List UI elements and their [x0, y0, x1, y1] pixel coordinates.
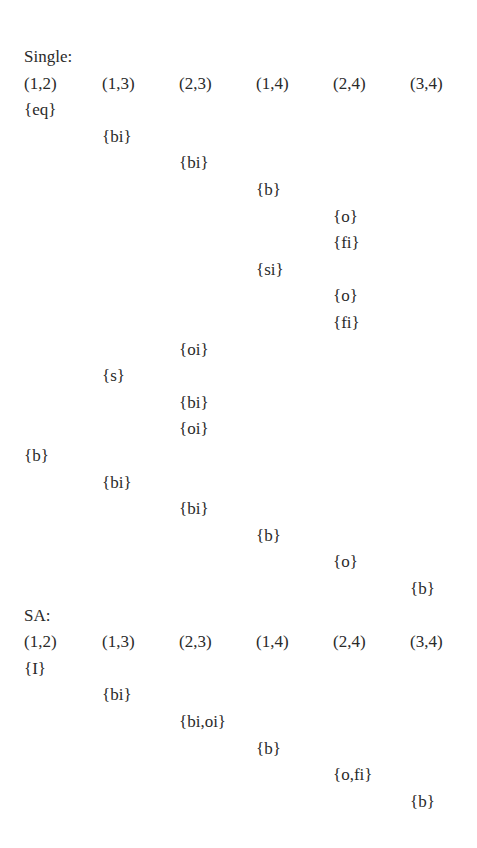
- sa-relation-entry: {o,fi}: [333, 765, 372, 785]
- sa-relation-entry: {bi,oi}: [179, 712, 226, 732]
- single-relation-entry: {oi}: [179, 419, 209, 439]
- single-column-header: (1,2): [24, 74, 57, 94]
- single-relation-entry: {o}: [333, 552, 358, 572]
- sa-column-header: (3,4): [410, 632, 443, 652]
- single-relation-entry: {oi}: [179, 340, 209, 360]
- document-page: Single:(1,2)(1,3)(2,3)(1,4)(2,4)(3,4){eq…: [0, 0, 477, 848]
- single-relation-entry: {si}: [256, 260, 284, 280]
- single-relation-entry: {b}: [256, 180, 281, 200]
- single-relation-entry: {fi}: [333, 313, 360, 333]
- single-relation-entry: {o}: [333, 207, 358, 227]
- single-relation-entry: {bi}: [179, 153, 209, 173]
- single-relation-entry: {bi}: [179, 499, 209, 519]
- single-relation-entry: {s}: [102, 366, 125, 386]
- single-relation-entry: {o}: [333, 286, 358, 306]
- single-column-header: (2,4): [333, 74, 366, 94]
- single-section-title: Single:: [24, 47, 72, 67]
- single-column-header: (2,3): [179, 74, 212, 94]
- sa-relation-entry: {b}: [256, 739, 281, 759]
- sa-relation-entry: {bi}: [102, 685, 132, 705]
- single-relation-entry: {b}: [410, 579, 435, 599]
- sa-section-title: SA:: [24, 606, 50, 626]
- sa-column-header: (2,3): [179, 632, 212, 652]
- single-relation-entry: {b}: [256, 526, 281, 546]
- single-relation-entry: {b}: [24, 446, 49, 466]
- single-relation-entry: {bi}: [179, 393, 209, 413]
- sa-relation-entry: {I}: [24, 659, 46, 679]
- single-column-header: (1,3): [102, 74, 135, 94]
- sa-column-header: (1,2): [24, 632, 57, 652]
- single-relation-entry: {bi}: [102, 473, 132, 493]
- single-column-header: (1,4): [256, 74, 289, 94]
- single-column-header: (3,4): [410, 74, 443, 94]
- sa-relation-entry: {b}: [410, 792, 435, 812]
- sa-column-header: (1,4): [256, 632, 289, 652]
- single-relation-entry: {bi}: [102, 127, 132, 147]
- sa-column-header: (1,3): [102, 632, 135, 652]
- single-relation-entry: {eq}: [24, 100, 56, 120]
- single-relation-entry: {fi}: [333, 233, 360, 253]
- sa-column-header: (2,4): [333, 632, 366, 652]
